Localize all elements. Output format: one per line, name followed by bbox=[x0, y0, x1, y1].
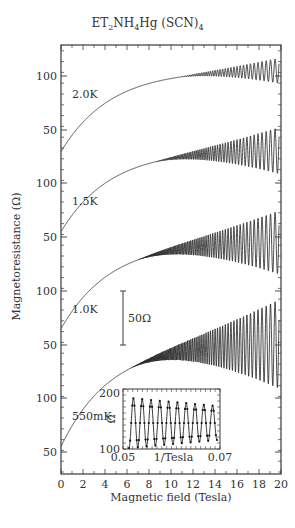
y-axis-label: Magnetoresistance (Ω) bbox=[10, 167, 23, 347]
svg-text:Ω: Ω bbox=[105, 414, 118, 423]
curve-2.0K bbox=[61, 59, 279, 151]
x-tick-label: 2 bbox=[80, 478, 87, 491]
y-tick-label: 50 bbox=[43, 231, 57, 244]
x-tick-label: 8 bbox=[146, 478, 153, 491]
y-tick-label: 100 bbox=[36, 177, 57, 190]
curve-1.5K bbox=[61, 129, 279, 231]
x-tick-label: 6 bbox=[124, 478, 131, 491]
magnetoresistance-chart: 024681012141618201005010050100501005050Ω… bbox=[0, 0, 295, 528]
x-tick-label: 14 bbox=[208, 478, 222, 491]
x-tick-label: 18 bbox=[252, 478, 266, 491]
y-tick-label: 50 bbox=[43, 446, 57, 459]
svg-text:1/Tesla: 1/Tesla bbox=[154, 451, 194, 464]
data-curves bbox=[61, 59, 279, 446]
y-tick-label: 50 bbox=[43, 124, 57, 137]
svg-text:50Ω: 50Ω bbox=[128, 312, 151, 325]
x-tick-label: 4 bbox=[102, 478, 109, 491]
x-tick-label: 20 bbox=[274, 478, 288, 491]
series-label: 1.5K bbox=[72, 195, 98, 208]
y-tick-label: 100 bbox=[36, 70, 57, 83]
chart-title: ET2NH4Hg (SCN)4 bbox=[0, 16, 295, 32]
svg-text:0.05: 0.05 bbox=[111, 451, 136, 464]
scale-bar: 50Ω bbox=[120, 291, 151, 345]
x-axis-label: Magnetic field (Tesla) bbox=[61, 491, 281, 504]
y-tick-label: 100 bbox=[36, 392, 57, 405]
y-tick-label: 100 bbox=[36, 285, 57, 298]
y-tick-label: 50 bbox=[43, 339, 57, 352]
inset-plot: 200100Ω0.050.071/Tesla bbox=[99, 387, 232, 464]
series-label: 2.0K bbox=[72, 88, 98, 101]
x-tick-label: 0 bbox=[58, 478, 65, 491]
x-tick-label: 12 bbox=[186, 478, 200, 491]
series-labels: 2.0K1.5K1.0K550mK bbox=[72, 88, 112, 423]
svg-text:0.07: 0.07 bbox=[208, 451, 233, 464]
svg-text:200: 200 bbox=[99, 387, 120, 400]
x-tick-label: 16 bbox=[230, 478, 244, 491]
series-label: 1.0K bbox=[72, 303, 98, 316]
x-tick-label: 10 bbox=[164, 478, 178, 491]
